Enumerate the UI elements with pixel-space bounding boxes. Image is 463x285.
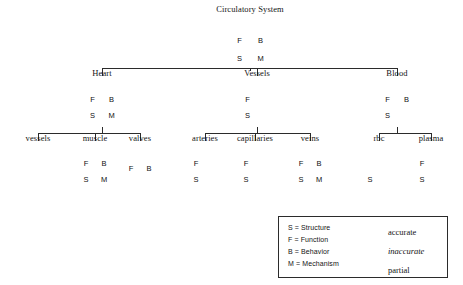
node-label-plasma[interactable]: plasma bbox=[419, 133, 444, 143]
quadrant-letter-B: B bbox=[109, 95, 114, 104]
quadrant-letter-F: F bbox=[194, 159, 199, 168]
node-glyphs: FBSMFBSMFBSFBSFBSMFBFSFSFBSMSFS bbox=[83, 36, 424, 184]
quadrant-letter-F: F bbox=[237, 36, 242, 45]
node-label-veins[interactable]: veins bbox=[301, 133, 319, 143]
quadrant-letter-S: S bbox=[193, 175, 198, 184]
quadrant-letter-B: B bbox=[258, 36, 263, 45]
node-label-rbc[interactable]: rbc bbox=[373, 133, 384, 143]
quadrant-letter-F: F bbox=[385, 95, 390, 104]
legend-key-0: S = Structure bbox=[288, 224, 330, 231]
quadrant-letter-B: B bbox=[404, 95, 409, 104]
quadrant-letter-B: B bbox=[264, 95, 269, 104]
node-label-muscle[interactable]: muscle bbox=[83, 133, 108, 143]
edge-connectors bbox=[38, 68, 431, 141]
quadrant-letter-S: S bbox=[90, 111, 95, 120]
quadrant-letter-B: B bbox=[101, 159, 106, 168]
quadrant-letter-F: F bbox=[244, 159, 249, 168]
node-label-arteries[interactable]: arteries bbox=[192, 133, 218, 143]
quadrant-letter-F: F bbox=[299, 159, 304, 168]
node-label-vessels-child[interactable]: vessels bbox=[26, 133, 51, 143]
quadrant-letter-B: B bbox=[316, 159, 321, 168]
node-label-blood[interactable]: Blood bbox=[386, 68, 407, 78]
quadrant-letter-M: M bbox=[101, 175, 107, 184]
quadrant-letter-F: F bbox=[90, 95, 95, 104]
legend-key-1: F = Function bbox=[288, 236, 328, 243]
node-label-vessels[interactable]: Vessels bbox=[244, 68, 270, 78]
quadrant-letter-S: S bbox=[243, 175, 248, 184]
legend-label-partial: partial bbox=[388, 265, 410, 275]
quadrant-letter-F: F bbox=[84, 159, 89, 168]
legend-label-accurate: accurate bbox=[388, 227, 416, 237]
quadrant-letter-F: F bbox=[129, 164, 134, 173]
node-label-capillaries[interactable]: capillaries bbox=[237, 133, 273, 143]
node-label-circulatory-system[interactable]: Circulatory System bbox=[216, 4, 284, 14]
quadrant-letter-S: S bbox=[298, 175, 303, 184]
quadrant-letter-S: S bbox=[385, 111, 390, 120]
node-label-valves[interactable]: valves bbox=[129, 133, 151, 143]
quadrant-letter-M: M bbox=[257, 54, 263, 63]
quadrant-letter-F: F bbox=[420, 159, 425, 168]
quadrant-letter-S: S bbox=[419, 175, 424, 184]
legend-key-2: B = Behavior bbox=[288, 248, 329, 255]
quadrant-letter-M: M bbox=[316, 175, 322, 184]
quadrant-letter-S: S bbox=[245, 111, 250, 120]
quadrant-letter-M: M bbox=[108, 111, 114, 120]
quadrant-letter-B: B bbox=[146, 164, 151, 173]
quadrant-letter-S: S bbox=[83, 175, 88, 184]
quadrant-letter-S: S bbox=[367, 175, 372, 184]
quadrant-letter-S: S bbox=[237, 54, 242, 63]
legend-label-inaccurate: inaccurate bbox=[388, 246, 424, 256]
node-label-heart[interactable]: Heart bbox=[92, 68, 111, 78]
quadrant-letter-F: F bbox=[245, 95, 250, 104]
legend-key-3: M = Mechanism bbox=[288, 260, 339, 267]
